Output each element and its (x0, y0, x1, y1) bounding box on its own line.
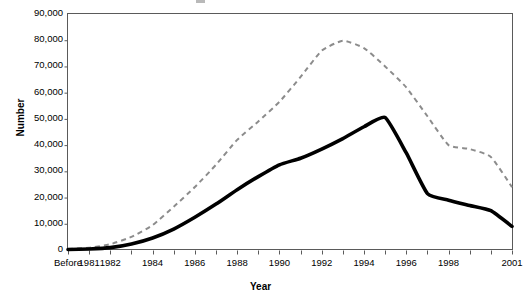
plot-area (0, 0, 530, 299)
chart-container: Number Year 90,00080,00070,00060,00050,0… (0, 0, 530, 299)
plot-frame (68, 14, 513, 250)
